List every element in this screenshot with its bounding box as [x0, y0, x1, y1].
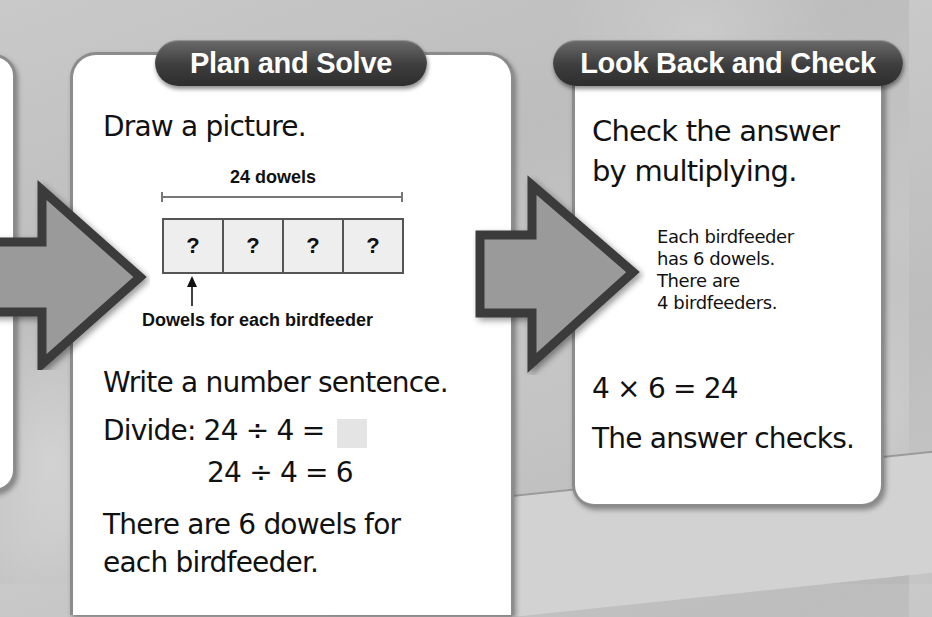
bar-model-part: ? — [224, 220, 284, 272]
write-sentence-instruction: Write a number sentence. — [103, 366, 448, 399]
check-conclusion: The answer checks. — [592, 422, 854, 455]
plan-and-solve-title: Plan and Solve — [155, 40, 427, 86]
note-line-3: There are — [657, 270, 740, 292]
division-solution: 24 ÷ 4 = 6 — [207, 456, 353, 489]
total-bracket — [162, 196, 402, 198]
division-equation: Divide: 24 ÷ 4 = — [103, 414, 324, 447]
draw-picture-instruction: Draw a picture. — [103, 110, 306, 143]
check-instruction-line-1: Check the answer — [592, 114, 839, 148]
look-back-title: Look Back and Check — [553, 40, 903, 86]
bar-model-part: ? — [164, 220, 224, 272]
pointer-label: Dowels for each birdfeeder — [142, 310, 373, 331]
right-arrow-icon — [470, 175, 645, 375]
total-dowels-label: 24 dowels — [230, 167, 316, 188]
right-arrow-icon — [0, 180, 150, 370]
multiplication-check: 4 × 6 = 24 — [592, 372, 738, 405]
conclusion-line-2: each birdfeeder. — [103, 546, 318, 579]
up-arrow-icon — [186, 276, 198, 306]
note-line-4: 4 birdfeeders. — [657, 292, 777, 314]
bar-model: ? ? ? ? — [162, 218, 404, 274]
bar-model-part: ? — [284, 220, 344, 272]
answer-blank-box — [337, 419, 367, 448]
note-line-1: Each birdfeeder — [657, 226, 794, 248]
bar-model-part: ? — [344, 220, 402, 272]
conclusion-line-1: There are 6 dowels for — [103, 508, 400, 541]
note-line-2: has 6 dowels. — [657, 248, 775, 270]
